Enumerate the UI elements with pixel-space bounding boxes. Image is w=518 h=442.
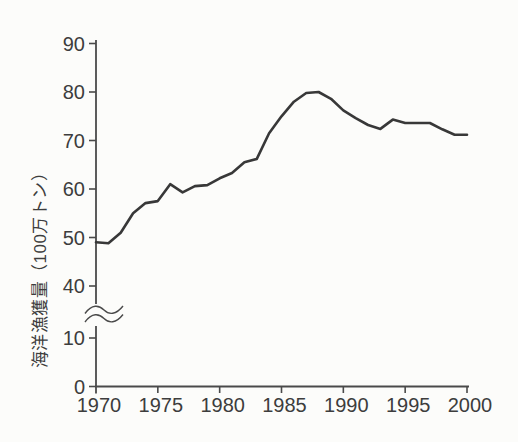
marine-catch-line-chart: 9080706050401001970197519801985199019952…: [0, 0, 518, 442]
x-tick-label: 1990: [324, 394, 369, 416]
y-tick-label: 90: [63, 33, 85, 55]
x-tick-label: 1985: [262, 394, 307, 416]
x-tick-label: 1975: [139, 394, 184, 416]
y-tick-label: 80: [63, 81, 85, 103]
x-tick-label: 1970: [77, 394, 122, 416]
y-axis-break-wave: [85, 306, 123, 314]
x-tick-label: 2000: [448, 394, 493, 416]
y-tick-label: 70: [63, 130, 85, 152]
marine-catch-figure: 9080706050401001970197519801985199019952…: [0, 0, 518, 442]
y-axis-title: 海洋漁獲量（100万トン）: [31, 164, 50, 369]
y-axis-break-wave: [85, 315, 123, 323]
y-tick-label: 50: [63, 227, 85, 249]
y-tick-label: 10: [63, 327, 85, 349]
y-tick-label: 60: [63, 178, 85, 200]
x-tick-label: 1980: [200, 394, 245, 416]
catch-series-line: [96, 92, 467, 243]
x-tick-label: 1995: [386, 394, 431, 416]
y-tick-label: 40: [63, 275, 85, 297]
scanned-chart-page: 9080706050401001970197519801985199019952…: [0, 0, 518, 442]
